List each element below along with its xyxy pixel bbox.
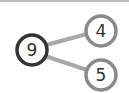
connector-whole-to-part-2: [45, 56, 87, 70]
part-circle-1: 4: [86, 16, 116, 46]
part-1-value: 4: [96, 21, 107, 41]
part-2-value: 5: [96, 65, 107, 85]
number-bond-diagram: 9 4 5: [0, 0, 129, 93]
whole-value: 9: [27, 40, 38, 60]
whole-circle: 9: [17, 35, 47, 65]
connector-whole-to-part-1: [46, 34, 87, 45]
part-circle-2: 5: [86, 60, 116, 90]
